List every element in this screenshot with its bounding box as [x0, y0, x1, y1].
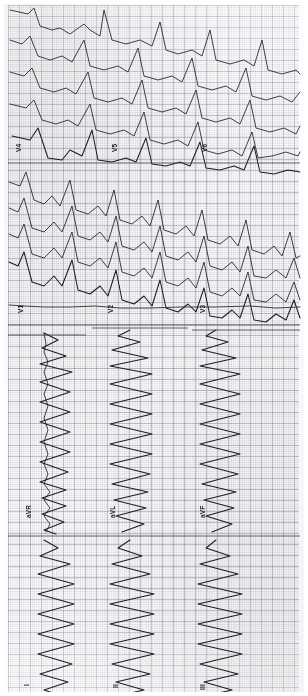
lead-group-v4 [10, 8, 300, 174]
lead-group-v1 [9, 172, 300, 322]
lead-label-v1: V1 [18, 305, 25, 313]
lead-group-avr [40, 330, 240, 534]
ecg-trace-layer [0, 0, 308, 696]
lead-label-ii: II [113, 684, 120, 688]
ecg-printout: V4 V5 V6 V1 V2 V3 aVR aVL aVF I II III [0, 0, 308, 696]
lead-label-v2: V2 [108, 305, 115, 313]
lead-label-v3: V3 [200, 305, 207, 313]
lead-label-v5: V5 [112, 144, 119, 152]
lead-label-v6: V6 [202, 144, 209, 152]
lead-group-i [38, 540, 242, 694]
lead-label-iii: III [200, 684, 207, 690]
baseline-ticks [8, 328, 300, 335]
lead-label-v4: V4 [16, 144, 23, 152]
lead-label-i: I [24, 684, 31, 686]
lead-label-avr: aVR [26, 505, 33, 518]
ecg-traces [0, 0, 308, 696]
lead-label-avf: aVF [200, 505, 207, 518]
lead-label-avl: aVL [110, 505, 117, 518]
